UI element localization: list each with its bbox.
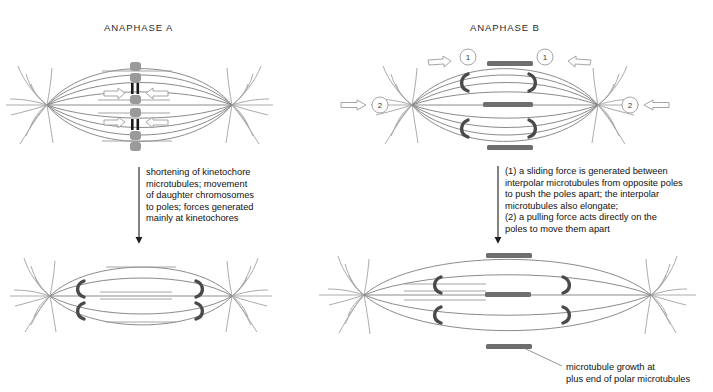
marker-one-left: 1 [460, 49, 476, 65]
movement-arrow-upper-right-a [146, 88, 168, 99]
marker-one-left-label: 1 [466, 53, 471, 62]
figure-canvas: ANAPHASE A ANAPHASE B [0, 0, 713, 392]
marker-two-right-label: 2 [628, 101, 633, 110]
marker-two-right: 2 [622, 97, 638, 113]
interpolar-overlap-bar-middle [483, 102, 533, 107]
aster-left-pole-a [6, 66, 53, 144]
sliding-force-arrow-left [428, 56, 451, 67]
growth-label-leader-line [526, 349, 562, 366]
spindle-anaphase-a-bottom [10, 258, 272, 332]
aster-right-pole-b-result [645, 256, 696, 334]
marker-one-right-label: 1 [543, 53, 548, 62]
polar-overlap-bar-middle [485, 292, 531, 297]
movement-arrow-upper-left-a [104, 88, 125, 99]
interpolar-overlap-bar-bottom [487, 145, 533, 150]
polar-overlap-bar-top [486, 253, 532, 258]
pulling-force-arrow-right [644, 100, 669, 110]
caption-microtubule-growth: microtubule growth at plus end of polar … [566, 362, 713, 385]
interpolar-segments-b-bottom [404, 284, 486, 300]
marker-one-right: 1 [537, 49, 553, 65]
sliding-force-arrow-right [568, 56, 591, 67]
spindle-anaphase-a-top [6, 62, 273, 151]
marker-two-left-label: 2 [378, 101, 383, 110]
chromosome-pair-lower-a [130, 108, 141, 151]
spindle-anaphase-b-bottom [319, 253, 696, 366]
caption-anaphase-a: shortening of kinetochore microtubules; … [146, 167, 296, 225]
pulling-force-arrow-left [341, 100, 366, 110]
marker-two-left: 2 [372, 97, 388, 113]
interpolar-overlap-bar-top [487, 61, 533, 66]
aster-left-pole-b-result [319, 256, 370, 334]
kinetochore-hooks-a-bottom [78, 281, 203, 319]
spindle-anaphase-b-top: 1 1 2 2 [341, 49, 669, 150]
polar-overlap-bar-bottom [486, 344, 532, 349]
aster-right-pole-a-result [226, 258, 272, 332]
aster-right-pole-a [226, 66, 273, 144]
caption-anaphase-b: (1) a sliding force is generated between… [505, 166, 711, 236]
aster-left-pole-a-result [10, 258, 56, 332]
